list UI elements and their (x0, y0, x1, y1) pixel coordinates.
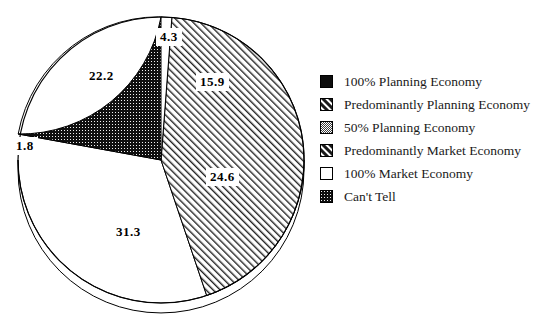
legend-label-predominantly-market: Predominantly Market Economy (344, 143, 521, 158)
slice-value-label-4: 31.3 (112, 223, 145, 241)
chart-legend: 100% Planning Economy Predominantly Plan… (320, 70, 545, 208)
pie-chart-figure: 4.3 15.9 24.6 31.3 1.8 22.2 100% Plannin… (0, 0, 547, 331)
pie-plot-area: 4.3 15.9 24.6 31.3 1.8 22.2 (0, 0, 320, 331)
legend-label-planning-100: 100% Planning Economy (344, 74, 482, 89)
slice-value-label-6: 22.2 (85, 67, 118, 85)
diagonal-hatch-dark-swatch-icon (320, 98, 333, 111)
diagonal-hatch-light-swatch-icon (320, 144, 333, 157)
dotted-dark-swatch-icon (320, 190, 333, 203)
legend-item-predominantly-planning[interactable]: Predominantly Planning Economy (320, 93, 545, 116)
pie-svg (0, 0, 320, 331)
legend-item-market-100[interactable]: 100% Market Economy (320, 162, 545, 185)
slice-value-label-1: 4.3 (156, 28, 182, 46)
pie-slice-4 (161, 17, 304, 295)
legend-label-market-100: 100% Market Economy (344, 166, 473, 181)
slice-value-label-2: 15.9 (196, 73, 229, 91)
legend-item-cant-tell[interactable]: Can't Tell (320, 185, 545, 208)
solid-black-swatch-icon (320, 75, 333, 88)
legend-item-planning-50[interactable]: 50% Planning Economy (320, 116, 545, 139)
legend-label-predominantly-planning: Predominantly Planning Economy (344, 97, 530, 112)
legend-label-planning-50: 50% Planning Economy (344, 120, 475, 135)
solid-white-swatch-icon (320, 167, 333, 180)
legend-item-predominantly-market[interactable]: Predominantly Market Economy (320, 139, 545, 162)
checker-gray-swatch-icon (320, 121, 333, 134)
slice-value-label-5: 1.8 (12, 137, 38, 155)
slice-value-label-3: 24.6 (206, 168, 239, 186)
legend-label-cant-tell: Can't Tell (344, 189, 396, 204)
legend-item-planning-100[interactable]: 100% Planning Economy (320, 70, 545, 93)
